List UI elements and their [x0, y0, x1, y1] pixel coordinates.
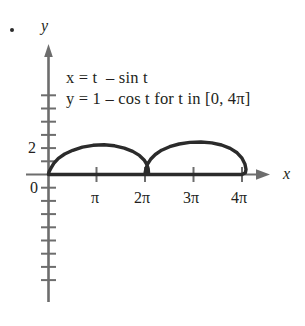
figure-container: y x 0 2 π 2π 3π 4π x = t – sin t y = 1 –… [0, 0, 305, 326]
y-axis-arrowhead [44, 44, 53, 57]
x-axis-arrowhead [256, 169, 270, 179]
origin-label: 0 [30, 180, 38, 196]
equation-y-of-t: y = 1 – cos t for t in [0, 4π] [66, 91, 251, 108]
x-tick-label-2pi: 2π [134, 190, 150, 206]
cycloid-curve [49, 142, 247, 175]
x-tick-label-3pi: 3π [183, 190, 199, 206]
y-axis-label: y [41, 18, 48, 34]
equation-x-of-t: x = t – sin t [66, 70, 148, 87]
x-tick-label-4pi: 4π [231, 190, 247, 206]
y-tick-label-2: 2 [28, 140, 36, 156]
x-tick-label-pi: π [91, 190, 99, 206]
x-axis-label: x [283, 166, 290, 182]
cycloid-plot-svg [0, 0, 305, 326]
